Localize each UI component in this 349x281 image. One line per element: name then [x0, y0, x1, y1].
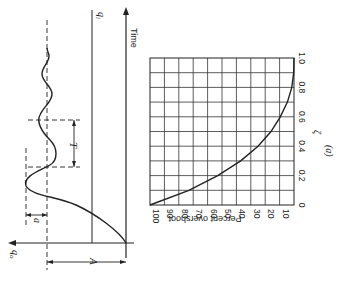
period-label: T	[68, 142, 80, 149]
arrow-icon	[120, 260, 126, 264]
percent-tick-label: 30	[252, 209, 262, 219]
zeta-tick-label: 0.6	[297, 111, 307, 123]
output-label: qo	[8, 250, 21, 259]
figure-label: (a)	[323, 145, 335, 157]
zeta-tick-label: 0.8	[297, 81, 307, 93]
percent-tick-label: 10	[281, 209, 291, 219]
arrow-icon	[72, 161, 76, 167]
time-axis-arrow-icon	[123, 7, 129, 15]
x-axis-label: ζ	[311, 130, 323, 135]
arrow-icon	[47, 260, 53, 264]
percent-tick-label: 100	[151, 209, 161, 223]
time-axis-label: Time	[129, 28, 139, 48]
zeta-tick-label: 0.2	[297, 170, 307, 182]
arrow-icon	[42, 213, 47, 217]
overshoot-label: a	[32, 218, 43, 223]
percent-tick-label: 20	[266, 209, 276, 219]
zeta-tick-label: 0.4	[297, 140, 307, 152]
chart-grid	[150, 58, 294, 205]
zeta-tick-label: 0	[297, 203, 307, 208]
zeta-tick-labels: 00.20.40.60.81.0	[297, 52, 307, 208]
response-labels: Time qi qo A a T	[8, 12, 139, 265]
y-axis-label: Percent overshoot	[168, 214, 242, 224]
output-axis-arrow-icon	[8, 240, 16, 246]
arrow-icon	[26, 213, 31, 217]
zeta-tick-label: 1.0	[297, 52, 307, 64]
arrow-icon	[72, 120, 76, 126]
amplitude-label: A	[88, 257, 100, 265]
input-label: qi	[94, 12, 107, 19]
step-response-plot	[8, 7, 134, 270]
overshoot-chart: 100908070605040302010 00.20.40.60.81.0 P…	[150, 52, 335, 224]
figure: Time qi qo A a T 100908070605040302010 0…	[0, 0, 349, 281]
